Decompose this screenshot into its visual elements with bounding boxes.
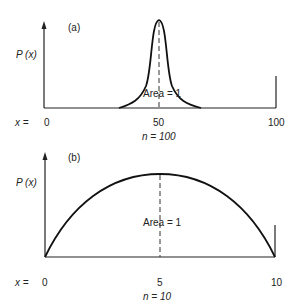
tick-0-a: 0 bbox=[44, 117, 50, 128]
n-label-a: n = 100 bbox=[142, 131, 176, 142]
n-label-b: n = 10 bbox=[143, 291, 172, 302]
y-label-b: P (x) bbox=[16, 177, 37, 188]
tick-max-b: 10 bbox=[271, 277, 283, 288]
tick-0-b: 0 bbox=[42, 277, 48, 288]
tick-max-a: 100 bbox=[268, 117, 285, 128]
panel-label-b: (b) bbox=[68, 152, 80, 163]
x-prefix-a: x = bbox=[14, 117, 29, 128]
panel-b: (b) P (x) Area = 1 x = 0 5 10 n = 10 bbox=[14, 152, 283, 302]
y-axis-arrow-icon bbox=[43, 152, 48, 160]
area-label-b: Area = 1 bbox=[143, 217, 182, 228]
x-prefix-b: x = bbox=[14, 277, 29, 288]
panel-a: (a) P (x) Area = 1 x = 0 50 100 n = 100 bbox=[14, 20, 285, 142]
figure: (a) P (x) Area = 1 x = 0 50 100 n = 100 … bbox=[0, 0, 297, 307]
tick-mid-b: 5 bbox=[157, 277, 163, 288]
panel-label-a: (a) bbox=[68, 22, 80, 33]
y-label-a: P (x) bbox=[16, 49, 37, 60]
tick-mid-a: 50 bbox=[153, 117, 165, 128]
y-axis-arrow-icon bbox=[42, 21, 47, 29]
area-label-a: Area = 1 bbox=[143, 88, 182, 99]
